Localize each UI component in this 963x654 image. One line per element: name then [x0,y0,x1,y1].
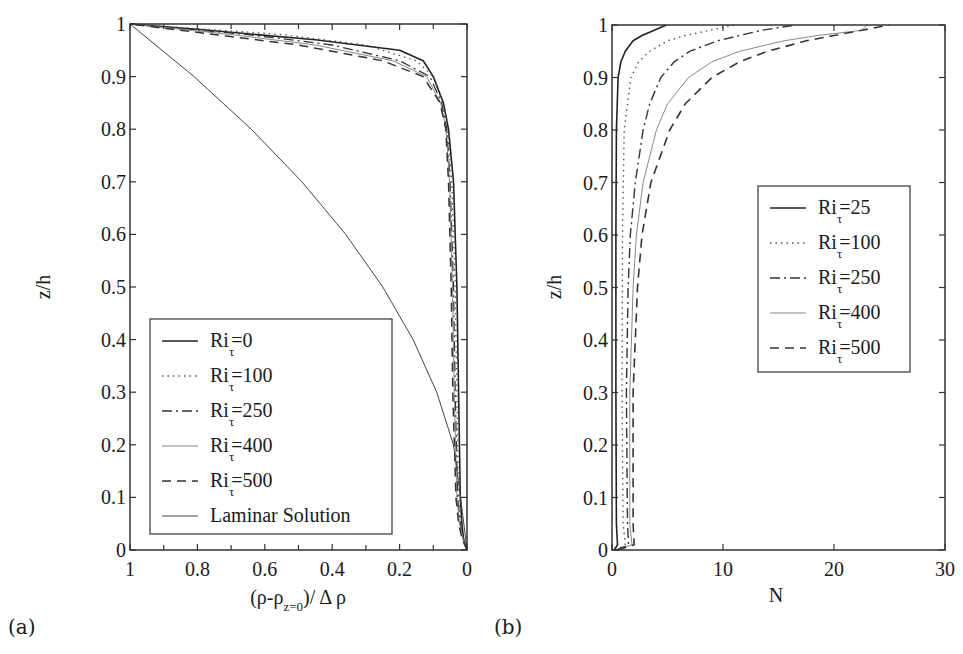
xtick-label: 0 [462,558,472,580]
panel-b-number-profile: 00.10.20.30.40.50.60.70.80.910102030 Riτ… [494,14,955,639]
xlabel-tail: )/ Δ ρ [303,586,346,609]
xtick-label: 10 [713,558,733,580]
ytick-label: 0.6 [583,224,608,246]
xlabel-main: (ρ-ρ [250,586,283,609]
xtick-label: 0.8 [185,558,210,580]
xtick-label: 20 [824,558,844,580]
panel-a-legend: Riτ=0Riτ=100Riτ=250Riτ=400Riτ=500Laminar… [150,319,392,534]
legend-label-5: Laminar Solution [210,504,351,526]
ytick-label: 0.1 [583,487,608,509]
ytick-label: 0.1 [101,486,126,508]
ytick-label: 0.9 [101,66,126,88]
ytick-label: 0.3 [583,382,608,404]
ytick-label: 0.4 [101,329,126,351]
xtick-label: 0.2 [387,558,412,580]
ytick-label: 1 [116,13,126,35]
ytick-label: 0.5 [583,277,608,299]
panel-b-ylabel: z/h [543,275,565,299]
panel-a-xlabel: (ρ-ρz=0)/ Δ ρ [250,586,346,614]
ytick-label: 0.7 [101,171,126,193]
panel-b-legend: Riτ=25Riτ=100Riτ=250Riτ=400Riτ=500 [758,186,910,372]
series-line-0 [614,25,666,550]
xtick-label: 30 [935,558,955,580]
legend-box [150,319,392,534]
ytick-label: 0.2 [583,434,608,456]
ytick-label: 0.9 [583,67,608,89]
ytick-label: 0.7 [583,172,608,194]
ytick-label: 0.8 [101,118,126,140]
ytick-label: 0.6 [101,223,126,245]
ytick-label: 0.3 [101,381,126,403]
xtick-label: 0.6 [252,558,277,580]
figure-canvas: 00.10.20.30.40.50.60.70.80.9110.80.60.40… [0,0,963,654]
panel-a-density-profile: 00.10.20.30.40.50.60.70.80.9110.80.60.40… [8,13,472,639]
xtick-label: 0 [607,558,617,580]
xlabel-subscript: z=0 [283,599,303,614]
panel-b-xlabel: N [769,584,783,606]
xtick-label: 0.4 [320,558,345,580]
panel-b-label: (b) [494,615,522,639]
xtick-label: 1 [125,558,135,580]
panel-a-label: (a) [8,615,36,639]
ytick-label: 0.5 [101,276,126,298]
ytick-label: 0.8 [583,119,608,141]
panel-a-ylabel: z/h [32,275,54,299]
ytick-label: 0.2 [101,434,126,456]
ytick-label: 0.4 [583,329,608,351]
ytick-label: 1 [598,14,608,36]
